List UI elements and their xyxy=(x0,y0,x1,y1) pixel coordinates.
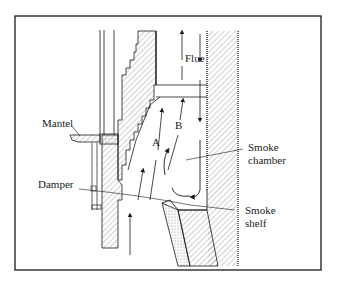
label-path-a: A xyxy=(152,136,160,148)
label-path-b: B xyxy=(175,119,182,131)
label-smoke-shelf-line1: Smoke xyxy=(245,204,276,216)
fireplace-diagram: Flue Mantel Damper Smoke chamber Smoke s… xyxy=(0,0,337,301)
chimney-face xyxy=(100,30,114,135)
label-damper: Damper xyxy=(38,178,74,190)
corbel-masonry xyxy=(118,31,156,180)
label-flue: Flue xyxy=(185,52,205,64)
label-smoke-chamber-line2: chamber xyxy=(248,154,286,166)
label-smoke-shelf-line2: shelf xyxy=(245,217,267,229)
label-smoke-chamber-line1: Smoke xyxy=(248,141,279,153)
label-mantel: Mantel xyxy=(42,117,73,129)
